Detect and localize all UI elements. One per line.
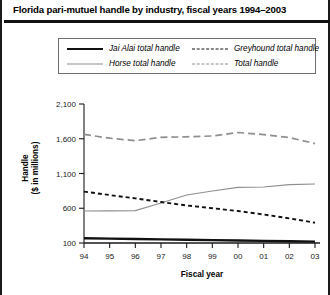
x-tick-label: 98 <box>182 252 191 261</box>
x-tick-label: 02 <box>285 252 294 261</box>
y-tick-label: 600 <box>63 204 77 213</box>
y-tick-label: 1,100 <box>56 170 77 179</box>
x-tick-label: 03 <box>311 252 320 261</box>
x-tick-label: 00 <box>234 252 243 261</box>
y-tick-label: 2,100 <box>56 100 77 109</box>
x-tick-label: 94 <box>80 252 89 261</box>
y-axis-title-line2: ($ in millions) <box>31 141 40 194</box>
y-tick-label: 100 <box>63 239 77 248</box>
x-axis-tick-labels: 94959697989900010203 <box>80 252 320 261</box>
y-axis-tick-labels: 1006001,1001,6002,100 <box>56 100 77 248</box>
series-line <box>84 133 315 144</box>
x-tick-label: 95 <box>105 252 114 261</box>
x-axis-title: Fiscal year <box>181 270 224 279</box>
series-line <box>84 238 315 241</box>
data-series-group <box>84 133 315 242</box>
x-tick-label: 01 <box>259 252 268 261</box>
x-axis-tick-marks <box>84 243 315 248</box>
y-tick-label: 1,600 <box>56 135 77 144</box>
x-tick-label: 97 <box>157 252 166 261</box>
series-line <box>84 184 315 211</box>
plot-area: 1006001,1001,6002,100 949596979899000102… <box>2 0 330 295</box>
chart-figure: Florida pari-mutuel handle by industry, … <box>0 0 330 295</box>
x-tick-label: 99 <box>208 252 217 261</box>
y-axis-title-line1: Handle <box>21 154 30 182</box>
x-tick-label: 96 <box>131 252 140 261</box>
series-line <box>84 192 315 223</box>
y-axis-tick-marks <box>79 104 84 243</box>
